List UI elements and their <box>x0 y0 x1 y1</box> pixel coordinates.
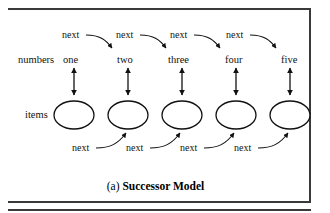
number-label-4: four <box>225 55 243 66</box>
bottom-arrow-one-to-two <box>96 133 126 148</box>
bottom-edge-label-1: next <box>72 143 89 153</box>
top-arrow-three-to-four <box>194 35 220 48</box>
caption-title: Successor Model <box>122 180 204 192</box>
item-node-1 <box>54 101 94 129</box>
bottom-arrow-two-to-three <box>150 133 180 148</box>
item-node-2 <box>108 101 148 129</box>
bottom-edge-label-4: next <box>234 143 251 153</box>
top-arrow-one-to-two <box>86 35 112 48</box>
number-label-3: three <box>168 55 189 66</box>
top-edge-label-3: next <box>170 30 187 40</box>
item-node-5 <box>270 101 310 129</box>
number-label-1: one <box>63 55 78 66</box>
caption-prefix: (a) <box>107 180 120 192</box>
item-nodes <box>54 101 310 129</box>
top-arrow-four-to-five <box>250 35 276 48</box>
figure-caption: (a) Successor Model <box>0 180 311 192</box>
top-edge-label-1: next <box>62 30 79 40</box>
row-label-items: items <box>25 110 48 121</box>
number-item-links <box>74 68 290 95</box>
top-edge-label-4: next <box>226 30 243 40</box>
bottom-arrow-four-to-five <box>258 133 288 148</box>
top-arrow-two-to-three <box>140 35 166 48</box>
item-node-3 <box>162 101 202 129</box>
figure-successor-model: next next next next numbers one two thre… <box>0 0 330 213</box>
number-label-2: two <box>117 55 133 66</box>
row-label-numbers: numbers <box>18 55 54 66</box>
number-label-5: five <box>281 55 297 66</box>
bottom-edge-label-2: next <box>126 143 143 153</box>
bottom-edge-label-3: next <box>180 143 197 153</box>
bottom-arrow-three-to-four <box>204 133 234 148</box>
item-node-4 <box>216 101 256 129</box>
top-edge-label-2: next <box>116 30 133 40</box>
